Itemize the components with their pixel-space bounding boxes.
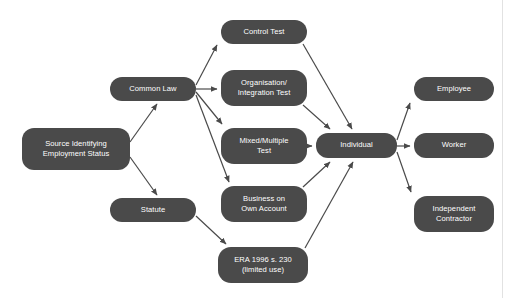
node-employee[interactable]: Employee xyxy=(414,77,494,101)
node-business-on-own-account[interactable]: Business on Own Account xyxy=(221,186,307,222)
edge-era-1996-to-individual xyxy=(305,162,353,248)
edge-organisation-test-to-individual xyxy=(303,105,330,129)
edge-individual-to-independent-contractor xyxy=(397,152,411,192)
diagram-canvas: Source Identifying Employment Status Com… xyxy=(0,0,519,298)
node-worker[interactable]: Worker xyxy=(414,133,494,158)
node-common-law[interactable]: Common Law xyxy=(110,77,196,101)
edge-business-own-account-to-individual xyxy=(303,162,330,187)
edge-individual-to-employee xyxy=(397,103,410,140)
node-organisation-integration-test[interactable]: Organisation/ Integration Test xyxy=(221,70,307,106)
node-individual[interactable]: Individual xyxy=(316,133,397,158)
edge-control-test-to-individual xyxy=(303,44,352,129)
node-source-identifying-employment-status[interactable]: Source Identifying Employment Status xyxy=(22,128,130,170)
node-era-1996-s-230[interactable]: ERA 1996 s. 230 (limited use) xyxy=(218,247,308,283)
edge-source-to-statute xyxy=(130,157,157,195)
node-control-test[interactable]: Control Test xyxy=(221,20,307,44)
node-independent-contractor[interactable]: Independent Contractor xyxy=(414,196,494,232)
edge-common-law-to-control-test xyxy=(196,45,217,85)
node-mixed-multiple-test[interactable]: Mixed/Multiple Test xyxy=(221,128,307,164)
edge-common-law-to-mixed-test xyxy=(196,92,222,124)
page-divider-line xyxy=(502,0,503,298)
edge-source-to-common-law xyxy=(130,104,157,142)
edge-statute-to-era-1996 xyxy=(196,216,226,244)
node-statute[interactable]: Statute xyxy=(110,198,196,222)
